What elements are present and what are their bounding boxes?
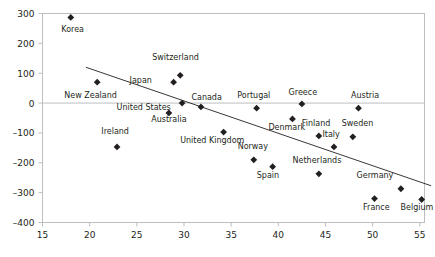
data-point-marker xyxy=(355,105,362,112)
y-tick-label: –300 xyxy=(13,188,35,198)
data-point-marker xyxy=(220,129,227,136)
data-point-marker xyxy=(94,79,101,86)
data-point-label: Korea xyxy=(61,25,84,34)
data-point-marker xyxy=(398,185,405,192)
data-point-marker xyxy=(298,101,305,108)
data-point-label: Spain xyxy=(257,171,279,180)
x-tick-label: 35 xyxy=(225,230,236,240)
data-point-label: New Zealand xyxy=(64,91,117,100)
x-tick-label: 55 xyxy=(414,230,425,240)
y-tick-label: –200 xyxy=(13,158,35,168)
y-tick-label: –400 xyxy=(13,218,35,228)
data-point-label: Japan xyxy=(129,76,152,85)
scatter-plot-figure: KoreaNew ZealandIrelandSwitzerlandJapanU… xyxy=(0,0,435,257)
data-point-label: Germany xyxy=(357,171,394,180)
data-point-label: Italy xyxy=(322,130,340,139)
data-point-label: Australia xyxy=(151,115,186,124)
x-tick-label: 25 xyxy=(131,230,142,240)
data-point-label: Switzerland xyxy=(152,53,199,62)
data-point-marker xyxy=(289,115,296,122)
x-tick-label: 30 xyxy=(178,230,190,240)
x-axis-tick-labels: 152025303540455055 xyxy=(37,230,426,240)
data-point-marker xyxy=(198,104,205,111)
data-point-label: Netherlands xyxy=(293,156,342,165)
data-point-marker xyxy=(269,163,276,170)
data-point-label: Canada xyxy=(191,93,222,102)
x-tick-label: 45 xyxy=(320,230,331,240)
x-tick-label: 15 xyxy=(37,230,48,240)
data-point-marker xyxy=(67,14,74,21)
data-point-label: Greece xyxy=(289,88,318,97)
data-point-marker xyxy=(371,195,378,202)
data-point-marker xyxy=(114,144,121,151)
x-tick-label: 40 xyxy=(273,230,285,240)
y-tick-label: 0 xyxy=(29,99,35,109)
data-point-labels: KoreaNew ZealandIrelandSwitzerlandJapanU… xyxy=(61,25,433,211)
data-point-marker xyxy=(315,170,322,177)
data-point-label: Denmark xyxy=(268,123,305,132)
y-tick-label: 200 xyxy=(17,39,34,49)
data-point-label: Belgium xyxy=(401,203,434,212)
data-point-label: United States xyxy=(117,103,171,112)
data-point-label: Ireland xyxy=(101,127,129,136)
data-point-marker xyxy=(253,105,260,112)
plot-canvas: KoreaNew ZealandIrelandSwitzerlandJapanU… xyxy=(0,0,435,257)
data-point-label: Finland xyxy=(302,119,331,128)
y-tick-label: 300 xyxy=(17,9,34,19)
data-point-label: United Kingdom xyxy=(180,136,244,145)
y-axis-tick-labels: –400–300–200–1000100200300 xyxy=(13,9,35,228)
y-tick-label: 100 xyxy=(17,69,34,79)
data-point-marker xyxy=(349,133,356,140)
data-point-marker xyxy=(170,79,177,86)
data-point-label: Portugal xyxy=(237,91,270,100)
data-point-marker xyxy=(331,144,338,151)
data-point-marker xyxy=(177,72,184,79)
data-point-marker xyxy=(250,156,257,163)
data-point-label: Austria xyxy=(351,91,379,100)
x-tick-label: 50 xyxy=(367,230,379,240)
data-point-marker xyxy=(315,133,322,140)
y-tick-label: –100 xyxy=(13,128,35,138)
data-point-label: Norway xyxy=(238,142,269,151)
data-point-label: France xyxy=(363,203,390,212)
x-tick-label: 20 xyxy=(84,230,96,240)
data-point-label: Sweden xyxy=(342,119,374,128)
